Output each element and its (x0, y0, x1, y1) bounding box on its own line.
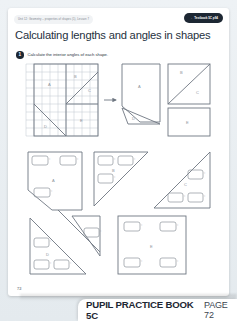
answer-box[interactable] (160, 258, 176, 267)
slide-canvas: Unit 12: Geometry – properties of shapes… (0, 0, 237, 321)
answer-shape-d: D ° ° ° ° (30, 210, 102, 274)
piece-e-label: E (186, 120, 189, 125)
page-title: Calculating lengths and angles in shapes (15, 29, 210, 41)
worksheet-page: Unit 12: Geometry – properties of shapes… (8, 8, 229, 296)
answer-shape-a: A ° ° ° (28, 152, 82, 210)
piece-e-outline (168, 108, 210, 136)
badge-label: Textbook 5C p94 (194, 16, 218, 20)
degree-symbol: ° (184, 195, 186, 199)
shape-b-outline (94, 152, 148, 206)
answer-shape-b: B ° ° ° (94, 152, 148, 206)
answer-box[interactable] (60, 156, 76, 165)
shape-b-label: B (112, 168, 115, 173)
degree-symbol: ° (204, 195, 206, 199)
answer-box[interactable] (54, 260, 69, 269)
answer-shape-e: E ° ° ° ° (118, 216, 186, 274)
shape-e-label: E (150, 244, 153, 249)
piece-bc-diagonal (168, 64, 210, 104)
degree-symbol: ° (50, 240, 52, 244)
piece-b-label: B (180, 70, 183, 75)
shape-d-outline (30, 218, 86, 274)
degree-symbol: ° (141, 260, 143, 264)
piece-a-label: A (138, 84, 141, 89)
degree-symbol: ° (177, 260, 179, 264)
page-number: 72 (17, 286, 21, 291)
answer-box[interactable] (118, 156, 133, 165)
degree-symbol: ° (177, 224, 179, 228)
answer-box[interactable] (98, 156, 113, 165)
footer-page-label: PAGE 72 (204, 300, 237, 320)
degree-symbol: ° (49, 158, 51, 162)
shape-d-label: D (46, 252, 49, 257)
grid-label-b: B (74, 74, 77, 79)
grid-label-e: E (80, 118, 83, 123)
degree-symbol: ° (100, 230, 102, 234)
footer-book-title: PUPIL PRACTICE BOOK 5C (86, 299, 199, 321)
grid-composite-figure: A B C D E (26, 64, 98, 136)
degree-symbol: ° (50, 262, 52, 266)
piece-c-label: C (196, 90, 199, 95)
shape-a-answer-boxes[interactable]: ° ° ° (32, 156, 79, 197)
answer-box[interactable] (34, 238, 49, 247)
degree-symbol: ° (114, 158, 116, 162)
degree-symbol: ° (114, 176, 116, 180)
breadcrumb: Unit 12: Geometry – properties of shapes… (14, 15, 93, 24)
degree-symbol: ° (70, 262, 72, 266)
shape-c-outline (154, 152, 210, 208)
question-row: 1 Calculate the interior angles of each … (16, 51, 108, 59)
degree-symbol: ° (134, 158, 136, 162)
arrow-right-icon: → (189, 16, 192, 20)
answer-box[interactable] (34, 188, 50, 197)
worksheet-artwork: A B C D E A B C D (8, 60, 229, 296)
shape-a-label: A (52, 178, 55, 183)
degree-symbol: ° (204, 172, 206, 176)
shape-a-outline (28, 152, 82, 210)
question-number-badge: 1 (16, 51, 24, 59)
degree-symbol: ° (51, 190, 53, 194)
answer-box[interactable] (124, 258, 140, 267)
answer-box[interactable] (188, 193, 203, 202)
answer-box[interactable] (160, 222, 176, 231)
grid-label-c: C (88, 88, 91, 93)
answer-box[interactable] (34, 260, 49, 269)
answer-box[interactable] (32, 156, 48, 165)
grid-label-a: A (48, 82, 51, 87)
grid-label-d: D (44, 124, 47, 129)
answer-box[interactable] (124, 222, 140, 231)
answer-shape-c: C ° ° ° (154, 152, 210, 208)
answer-box[interactable] (168, 193, 183, 202)
piece-d-label: D (132, 116, 135, 121)
footer-bar: PUPIL PRACTICE BOOK 5C PAGE 72 (78, 299, 237, 321)
textbook-reference-badge[interactable]: → Textbook 5C p94 (184, 13, 223, 23)
shape-d-answer-boxes[interactable]: ° ° ° (34, 238, 72, 269)
question-text: Calculate the interior angles of each sh… (28, 52, 109, 57)
exploded-pieces: A B C D E (122, 64, 210, 136)
grid-lines (26, 64, 98, 136)
answer-box[interactable] (98, 174, 113, 183)
degree-symbol: ° (141, 224, 143, 228)
piece-a-outline (122, 64, 160, 122)
shape-d-adjacent-triangle (72, 216, 100, 256)
shape-c-label: C (184, 182, 187, 187)
degree-symbol: ° (77, 158, 79, 162)
